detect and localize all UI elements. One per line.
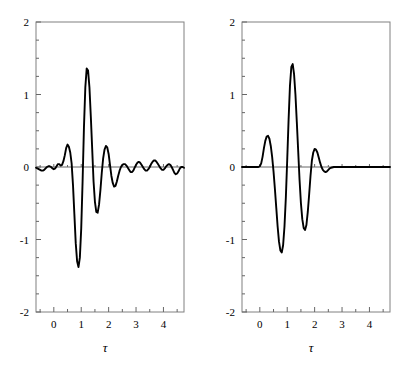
y-tick-label: 0 — [24, 161, 30, 173]
x-axis-label-right: τ — [291, 340, 331, 356]
panel-right: 01234-2-1012 τ — [206, 0, 412, 376]
y-tick-label: -2 — [226, 306, 235, 318]
x-tick-label: 4 — [161, 318, 167, 330]
y-tick-label: 1 — [24, 89, 30, 101]
x-tick-label: 4 — [367, 318, 373, 330]
x-tick-label: 2 — [106, 318, 112, 330]
two-panel-wavelet-figure: 01234-2-1012 τ 01234-2-1012 τ — [0, 0, 413, 376]
x-tick-label: 2 — [312, 318, 318, 330]
x-tick-label: 1 — [284, 318, 290, 330]
plot-area-left: 01234-2-1012 — [0, 0, 206, 340]
plot-area-right: 01234-2-1012 — [206, 0, 412, 340]
waveform-curve — [36, 68, 184, 267]
y-tick-label: -1 — [20, 234, 29, 246]
y-tick-label: 2 — [24, 16, 30, 28]
x-tick-label: 1 — [78, 318, 84, 330]
y-tick-label: 0 — [230, 161, 236, 173]
y-tick-label: 2 — [230, 16, 236, 28]
panel-left: 01234-2-1012 τ — [0, 0, 206, 376]
x-tick-label: 0 — [51, 318, 57, 330]
y-tick-label: 1 — [230, 89, 236, 101]
x-tick-label: 3 — [133, 318, 139, 330]
y-tick-label: -2 — [20, 306, 29, 318]
x-tick-label: 0 — [257, 318, 263, 330]
x-tick-label: 3 — [339, 318, 345, 330]
y-tick-label: -1 — [226, 234, 235, 246]
x-axis-label-left: τ — [85, 340, 125, 356]
waveform-curve — [242, 64, 390, 253]
